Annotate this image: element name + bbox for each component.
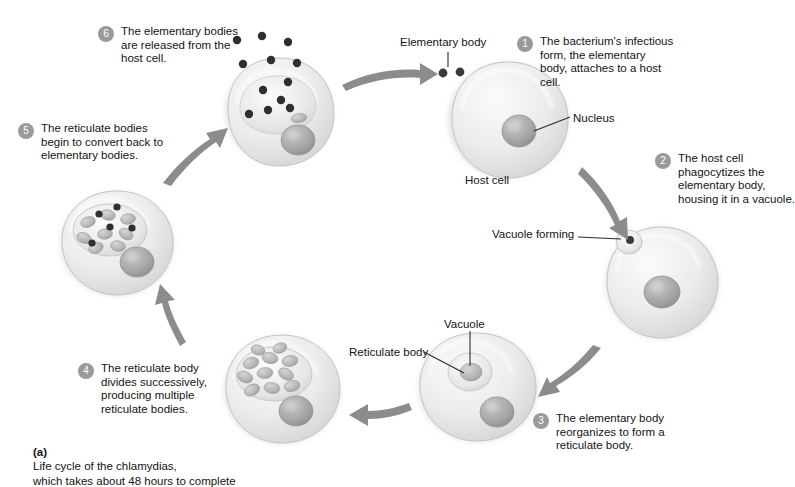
arrow-bottom [349, 403, 412, 426]
step-1: 1 The bacterium's infectious form, the e… [517, 35, 685, 89]
arrow-upper-left [163, 128, 228, 186]
label-vacuole: Vacuole [444, 318, 485, 332]
cell-stage-2 [578, 227, 719, 339]
step-1-badge: 1 [517, 36, 533, 52]
cell-stage-3 [418, 331, 538, 442]
step-2-text: The host cell phagocytizes the elementar… [678, 152, 795, 206]
figure-caption-label: (a) [33, 446, 47, 458]
step-3-badge: 3 [533, 413, 549, 429]
elementary-body-dot [439, 69, 448, 78]
cell-stage-5 [60, 191, 174, 296]
step-4-text: The reticulate body divides successively… [101, 362, 207, 416]
step-6: 6 The elementary bodies are released fro… [98, 25, 248, 66]
step-4: 4 The reticulate body divides successive… [78, 362, 228, 416]
figure-caption-text: Life cycle of the chlamydias, which take… [33, 460, 236, 487]
arrow-top [342, 63, 438, 91]
step-2: 2 The host cell phagocytizes the element… [655, 152, 795, 206]
figure-caption: (a) Life cycle of the chlamydias, which … [33, 430, 283, 487]
step-1-text: The bacterium's infectious form, the ele… [540, 35, 673, 89]
arrow-lower-left [155, 284, 186, 346]
label-nucleus: Nucleus [573, 112, 615, 126]
label-reticulate-body: Reticulate body [349, 346, 428, 360]
label-vacuole-forming: Vacuole forming [492, 228, 574, 242]
arrow-upper-right [578, 167, 628, 240]
step-3-text: The elementary body reorganizes to form … [556, 412, 665, 453]
elementary-body-dot [456, 68, 465, 77]
label-elementary-body: Elementary body [400, 36, 486, 50]
step-6-badge: 6 [98, 26, 114, 42]
step-5: 5 The reticulate bodies begin to convert… [18, 122, 170, 163]
cell-stage-4 [224, 335, 340, 444]
arrow-lower-right [538, 345, 601, 397]
step-5-text: The reticulate bodies begin to convert b… [41, 122, 163, 163]
step-4-badge: 4 [78, 363, 94, 379]
label-host-cell: Host cell [465, 174, 509, 188]
step-5-badge: 5 [18, 123, 34, 139]
step-6-text: The elementary bodies are released from … [121, 25, 238, 66]
reticulate-body [460, 363, 482, 381]
step-2-badge: 2 [655, 153, 671, 169]
step-3: 3 The elementary body reorganizes to for… [533, 412, 683, 453]
